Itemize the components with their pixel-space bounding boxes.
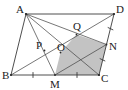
label-c: C [101, 72, 108, 84]
point-b [10, 74, 12, 76]
point-q [76, 34, 78, 36]
figure-canvas: A B C D M N O P Q [0, 0, 128, 90]
label-m: M [50, 78, 60, 90]
geometry-figure: A B C D M N O P Q [0, 0, 128, 90]
label-q: Q [73, 20, 81, 32]
point-m [54, 74, 56, 76]
label-d: D [116, 3, 124, 15]
point-c [98, 74, 100, 76]
label-n: N [109, 40, 117, 52]
segment-ab [11, 14, 26, 75]
point-a [25, 13, 27, 15]
point-n [106, 44, 108, 46]
point-p [44, 50, 46, 52]
label-a: A [16, 3, 24, 15]
label-p: P [36, 39, 42, 51]
point-d [113, 13, 115, 15]
label-b: B [2, 69, 9, 81]
label-o: O [57, 41, 65, 53]
